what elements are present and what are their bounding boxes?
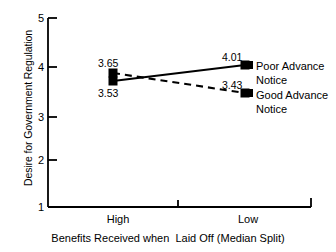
- legend-markers: [245, 61, 253, 97]
- data-point-poor-high: [109, 77, 118, 86]
- data-point-good-high: [109, 69, 118, 78]
- legend-marker-poor: [245, 61, 253, 69]
- plot-area: [0, 0, 336, 252]
- y-axis: [48, 18, 57, 207]
- x-axis: [48, 198, 311, 207]
- series-poor-advance-notice: [109, 61, 250, 86]
- chart-figure: Desire for Government Regulation 5 4 3 2…: [0, 0, 336, 252]
- legend-marker-good: [245, 89, 253, 97]
